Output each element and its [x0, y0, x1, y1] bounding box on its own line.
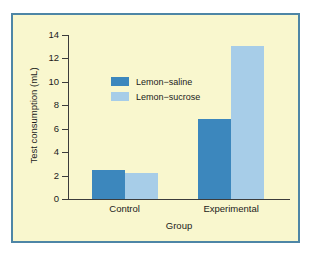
y-axis-tick-label: 0	[54, 193, 59, 204]
page-edge-text-fragments	[304, 16, 318, 88]
bar-control-sucrose	[125, 173, 158, 199]
x-axis-title: Group	[68, 220, 290, 231]
chart-legend: Lemon−salineLemon−sucrose	[111, 75, 200, 105]
legend-item: Lemon−saline	[111, 75, 200, 88]
bar-experimental-sucrose	[231, 46, 264, 199]
y-axis-tick-label: 8	[54, 99, 59, 110]
legend-item: Lemon−sucrose	[111, 90, 200, 103]
y-axis-tick-label: 4	[54, 146, 59, 157]
plot-area: Test consumption (mL) 02468101214 Contro…	[13, 15, 298, 241]
x-axis-tick-label: Experimental	[181, 203, 281, 214]
bar-control-saline	[92, 170, 125, 199]
y-axis-tick-label: 2	[54, 170, 59, 181]
y-axis-tick-label: 14	[48, 29, 59, 40]
chart-figure-frame: Test consumption (mL) 02468101214 Contro…	[11, 13, 300, 243]
y-axis-tick: 0	[62, 199, 69, 200]
x-axis-line	[68, 199, 290, 200]
legend-label: Lemon−sucrose	[136, 92, 200, 102]
bars-layer	[68, 35, 290, 199]
y-axis-tick-label: 10	[48, 76, 59, 87]
x-axis-tick-label: Control	[75, 203, 175, 214]
y-axis-title: Test consumption (mL)	[28, 49, 39, 183]
legend-label: Lemon−saline	[136, 77, 192, 87]
y-axis-tick-label: 6	[54, 123, 59, 134]
legend-swatch	[111, 92, 129, 101]
y-axis-tick-label: 12	[48, 52, 59, 63]
legend-swatch	[111, 77, 129, 86]
bar-experimental-saline	[198, 119, 231, 199]
